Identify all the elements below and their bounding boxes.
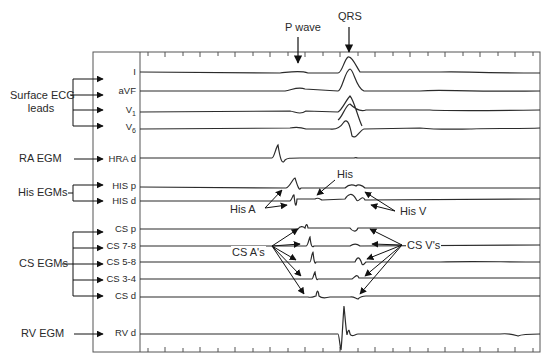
group-his-egms-label: His EGMs (18, 186, 68, 198)
qrs-label: QRS (338, 10, 362, 22)
cs-a-label: CS A's (231, 246, 266, 258)
channel-label-CS-58: CS 5-8 (92, 256, 136, 267)
channel-label-CS-34: CS 3-4 (92, 273, 136, 284)
channel-label-CS-p: CS p (92, 223, 136, 234)
trace-lead-V1 (140, 96, 540, 126)
trace-HIS-d (140, 194, 540, 205)
his-label: His (336, 168, 354, 180)
trace-lead-V6 (140, 121, 540, 137)
channel-label-CS-78: CS 7-8 (92, 240, 136, 251)
trace-CS-34 (140, 272, 540, 280)
trace-HRA-d (140, 145, 540, 162)
group-ra-egm-label: RA EGM (19, 152, 62, 164)
trace-lead-I (140, 57, 540, 73)
cs-v-label: CS V's (406, 239, 441, 251)
p-wave-label: P wave (285, 21, 321, 33)
trace-CS-d (140, 291, 540, 299)
channel-label-HIS-p: HIS p (92, 180, 136, 191)
channel-label-HRA-d: HRA d (92, 153, 136, 164)
channel-label-V6: V6 (92, 121, 136, 134)
group-cs-egms-label: CS EGMs (19, 257, 68, 269)
annotation-arrows (265, 180, 402, 294)
traces (140, 57, 540, 350)
channel-label-I: I (92, 66, 136, 77)
time-ticks-top (148, 52, 533, 57)
recording-frame (93, 52, 540, 352)
trace-CS-58 (140, 252, 540, 265)
trace-RV-d (140, 306, 540, 350)
group-surface-ecg-label: Surface ECG leads (10, 89, 72, 115)
channel-label-RV-d: RV d (92, 327, 136, 338)
channel-label-CS-d: CS d (92, 290, 136, 301)
egm-diagram (0, 0, 550, 361)
channel-label-HIS-d: HIS d (92, 195, 136, 206)
his-a-label: His A (229, 203, 257, 215)
channel-label-aVF: aVF (92, 85, 136, 96)
trace-CS-p (140, 225, 540, 231)
his-v-label: His V (399, 205, 427, 217)
channel-label-V1: V1 (92, 104, 136, 117)
trace-CS-78 (140, 237, 540, 247)
group-rv-egm-label: RV EGM (21, 327, 64, 339)
